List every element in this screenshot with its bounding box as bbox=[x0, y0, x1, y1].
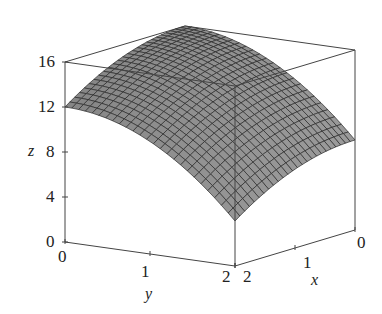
x-tick-0: 0 bbox=[357, 234, 366, 251]
y-axis-label: y bbox=[145, 286, 152, 302]
x-tick-2: 2 bbox=[243, 268, 252, 285]
surface-mesh bbox=[65, 26, 355, 221]
z-tick-8: 8 bbox=[46, 143, 55, 160]
y-tick-0: 0 bbox=[58, 248, 67, 265]
x-tick-1: 1 bbox=[303, 254, 312, 271]
y-tick-1: 1 bbox=[141, 263, 150, 280]
x-axis-label: x bbox=[311, 272, 318, 288]
z-tick-4: 4 bbox=[46, 188, 55, 205]
y-tick-2: 2 bbox=[222, 268, 231, 285]
z-axis-label: z bbox=[28, 143, 34, 159]
z-tick-12: 12 bbox=[38, 98, 55, 115]
z-tick-0: 0 bbox=[46, 233, 55, 250]
z-tick-16: 16 bbox=[38, 53, 55, 70]
surface-plot bbox=[0, 0, 382, 314]
